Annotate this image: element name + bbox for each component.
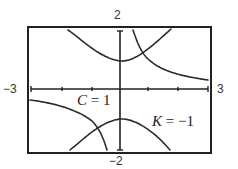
k-value: = −1 — [162, 113, 194, 129]
c-variable: C — [77, 92, 87, 108]
c-equals-label: C = 1 — [77, 93, 110, 108]
k-equals-label: K = −1 — [152, 114, 194, 129]
graph-screen — [0, 0, 238, 169]
k-variable: K — [152, 113, 162, 129]
curve-upper-right-branch — [133, 30, 208, 80]
c-value: = 1 — [87, 92, 110, 108]
